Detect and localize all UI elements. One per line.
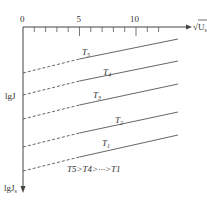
x-tick-label-10: 10 [130,14,140,24]
x-axis-label: √Us [193,22,207,33]
series-T4 [23,61,178,95]
series-T2 [23,112,178,147]
y-axis-label: lgJ [5,91,16,101]
y-axis-arrow-icon [21,186,26,193]
label-T1: T1 [102,138,110,149]
series-T3 [23,84,178,119]
label-T3: T3 [93,90,101,101]
series-T5 [23,39,178,73]
label-T4: T4 [103,67,111,78]
temperature-order-annotation: T5>T4>···>T1 [67,164,121,174]
schottky-plot: 0 5 10 √Us lgJ lgJs T5 T4 T3 T2 T1 T5>T4… [0,0,207,210]
label-T2: T2 [115,115,123,126]
x-axis-arrow-icon [186,25,192,30]
x-tick-label-0: 0 [20,14,25,24]
x-tick-label-5: 5 [77,14,82,24]
x-ticks [34,27,158,36]
y-origin-label: lgJs [4,183,18,194]
label-T5: T5 [82,47,90,58]
